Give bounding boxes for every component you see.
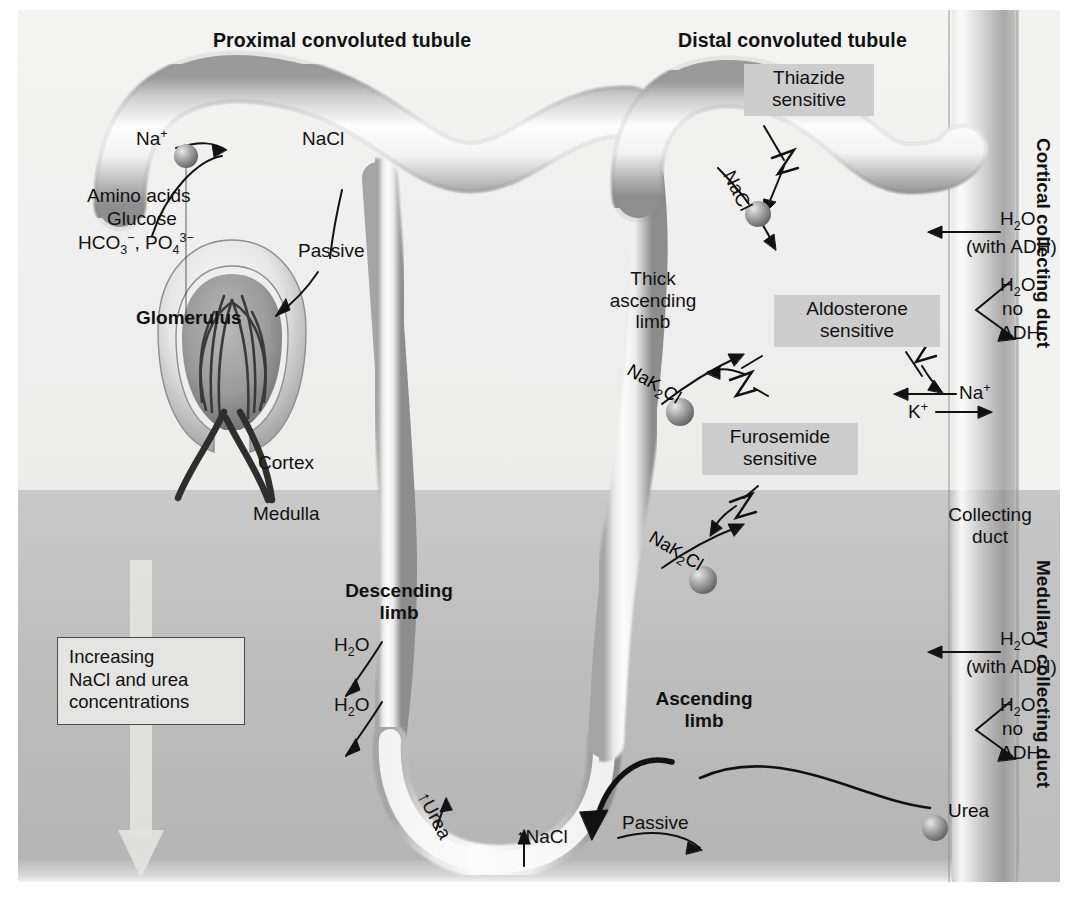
- label-h2o-medullary-no-adh: H2O: [1000, 694, 1035, 719]
- label-h2o-medullary-adh: H2O: [1000, 628, 1035, 653]
- label-ascending-limb: Ascendinglimb: [634, 688, 774, 731]
- page-title-distal: Distal convoluted tubule: [678, 29, 907, 51]
- label-k-cortical: K+: [908, 400, 928, 423]
- label-hco3-po4: HCO3−, PO43−: [78, 231, 194, 257]
- label-medulla: Medulla: [253, 503, 320, 525]
- label-nacl-loop-bottom: ↑NaCl: [516, 826, 568, 848]
- label-cortex: Cortex: [258, 452, 314, 474]
- label-thick-ascending-limb: Thickascendinglimb: [598, 268, 708, 333]
- increasing-concentration-box: Increasing NaCl and urea concentrations: [57, 637, 245, 725]
- label-descending-limb: Descendinglimb: [329, 580, 469, 623]
- label-na-proximal: Na+: [136, 127, 168, 150]
- conc-line-3: concentrations: [69, 691, 234, 714]
- conc-line-2: NaCl and urea: [69, 669, 234, 692]
- label-urea-medullary: Urea: [948, 800, 989, 822]
- kidney-nephron-diagram: Proximal convoluted tubule Distal convol…: [0, 0, 1069, 901]
- label-nacl-proximal: NaCl: [302, 128, 344, 150]
- box-aldosterone-sensitive: Aldosteronesensitive: [774, 295, 940, 347]
- label-passive-proximal: Passive: [298, 240, 365, 262]
- label-no-medullary: no: [1002, 718, 1023, 740]
- transporter-beads: [174, 144, 948, 841]
- label-na-cortical: Na+: [959, 381, 991, 404]
- label-amino-acids: Amino acids: [87, 185, 191, 207]
- label-glucose: Glucose: [107, 208, 177, 230]
- label-glomerulus: Glomerulus: [136, 307, 242, 329]
- label-no-cortical: no: [1002, 298, 1023, 320]
- label-collecting-duct: Collectingduct: [936, 504, 1044, 547]
- box-furosemide-sensitive: Furosemidesensitive: [702, 423, 858, 475]
- label-cortical-collecting-duct: Cortical collecting duct: [1032, 138, 1054, 348]
- page-title-proximal: Proximal convoluted tubule: [213, 29, 471, 51]
- conc-line-1: Increasing: [69, 646, 234, 669]
- label-h2o-cortical-no-adh: H2O: [1000, 274, 1035, 299]
- label-medullary-collecting-duct: Medullary collecting duct: [1032, 560, 1054, 788]
- label-h2o-descending-1: H2O: [334, 634, 369, 659]
- label-passive-loop: Passive: [622, 812, 689, 834]
- label-h2o-cortical-adh: H2O: [1000, 208, 1035, 233]
- box-thiazide-sensitive: Thiazidesensitive: [744, 64, 874, 116]
- label-h2o-descending-2: H2O: [334, 694, 369, 719]
